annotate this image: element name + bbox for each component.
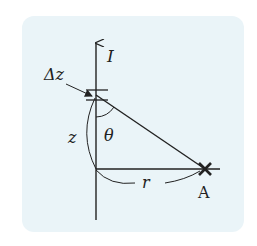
z-arc	[87, 98, 96, 169]
r-arc	[96, 170, 135, 183]
r-arc-right	[165, 171, 200, 183]
theta-label: θ	[104, 126, 114, 145]
z-label: z	[67, 128, 77, 147]
r-label: r	[142, 173, 151, 192]
element-label: Δz	[43, 65, 65, 84]
point-a-label: A	[197, 183, 210, 202]
theta-arc	[96, 107, 114, 117]
current-label: I	[106, 46, 114, 66]
diagram-canvas: I Δz z θ r A	[0, 0, 257, 246]
